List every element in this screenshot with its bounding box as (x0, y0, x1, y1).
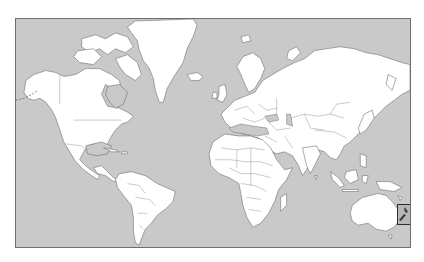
new-zealand-highlight-box[interactable] (397, 204, 411, 225)
land-hispaniola[interactable] (121, 152, 127, 154)
land-australia[interactable] (350, 193, 400, 231)
land-pacific-islands[interactable] (398, 195, 402, 200)
land-uk[interactable] (217, 84, 227, 102)
land-greenland[interactable] (127, 19, 197, 102)
world-map-canvas (16, 19, 410, 247)
land-victoria-island[interactable] (74, 49, 102, 65)
land-south-america[interactable] (115, 172, 175, 245)
land-baffin[interactable] (115, 55, 141, 81)
new-zealand-shape-icon (398, 205, 410, 223)
land-tasmania[interactable] (388, 235, 392, 239)
land-java[interactable] (342, 190, 358, 192)
land-borneo[interactable] (344, 170, 358, 184)
land-new-guinea[interactable] (376, 182, 402, 192)
land-sri-lanka[interactable] (314, 176, 317, 180)
land-philippines[interactable] (360, 154, 366, 168)
land-svalbard[interactable] (241, 35, 251, 43)
land-sulawesi[interactable] (362, 176, 368, 184)
land-ireland[interactable] (212, 92, 217, 98)
land-iceland[interactable] (187, 73, 203, 81)
land-madagascar[interactable] (281, 193, 287, 211)
hudson-bay (106, 84, 128, 108)
land-sumatra[interactable] (330, 172, 344, 188)
world-map[interactable] (15, 18, 411, 248)
land-novaya-zemlya[interactable] (287, 47, 301, 61)
